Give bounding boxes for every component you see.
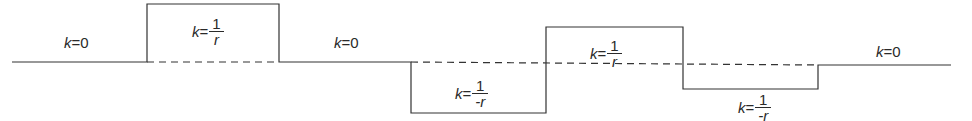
label-seg4: k= 1-r [455, 78, 488, 109]
label-seg2: k= 1r [192, 16, 224, 47]
label-seg7: k=0 [876, 43, 901, 60]
denominator: r [609, 54, 620, 69]
label-seg5: k= 1r [590, 38, 622, 69]
denominator: r [211, 32, 222, 47]
k-symbol: k [876, 43, 884, 60]
equals: = [598, 45, 607, 62]
k-symbol: k [64, 34, 72, 51]
label-seg6: k= 1-r [738, 92, 771, 121]
k-symbol: k [738, 99, 746, 116]
label-seg1: k=0 [64, 34, 89, 51]
equals: = [884, 43, 893, 60]
value: 0 [892, 43, 900, 60]
equals: = [72, 34, 81, 51]
equals: = [200, 23, 209, 40]
numerator: 1 [473, 78, 487, 93]
equals: = [342, 34, 351, 51]
fraction: 1-r [472, 78, 488, 109]
numerator: 1 [209, 16, 223, 31]
fraction: 1r [209, 16, 223, 47]
value: 0 [80, 34, 88, 51]
equals: = [463, 85, 472, 102]
k-symbol: k [455, 85, 463, 102]
value: 0 [350, 34, 358, 51]
k-symbol: k [590, 45, 598, 62]
equals: = [746, 99, 755, 116]
denominator: -r [755, 108, 771, 121]
fraction: 1r [607, 38, 621, 69]
k-symbol: k [334, 34, 342, 51]
numerator: 1 [607, 38, 621, 53]
k-symbol: k [192, 23, 200, 40]
fraction: 1-r [755, 92, 771, 121]
denominator: -r [472, 94, 488, 109]
label-seg3: k=0 [334, 34, 359, 51]
numerator: 1 [756, 92, 770, 107]
